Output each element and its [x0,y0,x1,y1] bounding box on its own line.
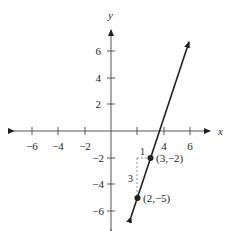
y-tick-label: −2 [92,152,104,164]
y-axis-label: y [107,9,113,21]
rise-label: 3 [128,173,133,184]
graph-line [131,42,189,217]
point-3-neg2 [148,155,154,161]
x-axis-label: x [217,125,223,137]
x-tick-label: −2 [79,140,91,152]
point-label: (2,−5) [143,192,171,205]
x-tick-label: −4 [52,140,64,152]
run-label: 1 [140,146,145,157]
point-2-neg5 [135,195,141,201]
point-label: (3,−2) [156,152,184,165]
x-tick-label: −6 [26,140,38,152]
y-tick-label: −6 [92,205,104,217]
y-tick-label: 4 [96,72,102,84]
y-tick-label: 6 [96,45,102,57]
x-tick-label: 4 [161,140,167,152]
y-tick-label: −4 [92,178,104,190]
coordinate-plane: −6 −4 −2 4 6 6 4 2 −2 −4 −6 x y 1 3 (3,−… [0,0,230,231]
y-tick-label: 2 [96,98,102,110]
x-tick-label: 6 [187,140,193,152]
